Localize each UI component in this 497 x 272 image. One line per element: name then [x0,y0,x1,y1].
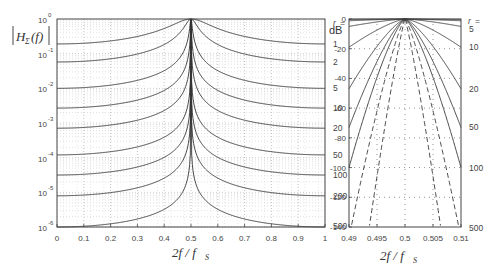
left-y-tick-exp: -6 [48,220,54,226]
right-plot-curves [349,19,461,227]
right-y-tick-label: -80 [334,134,346,143]
right-r-eq: = [475,16,480,26]
left-x-tick-label: 0.9 [293,234,305,243]
right-x-tick-label: 0.49 [341,234,357,243]
right-r-label: 10 [469,42,479,52]
right-plot-grid [349,19,461,227]
right-x-tick-label: 0.51 [453,234,469,243]
xlabel-right: 2f / f [380,248,406,263]
right-y-tick-label: -140 [330,223,347,232]
left-y-axis-label: H Σ (f) [13,26,49,46]
xlabel-left-sub: S [205,253,209,262]
ylabel-sub: Σ [24,37,30,46]
left-r-label: 20 [333,123,343,133]
xlabel-right-sub: S [413,256,417,265]
right-y-tick-label: -60 [334,104,346,113]
left-x-tick-label: 0.7 [239,234,251,243]
right-x-tick-label: 0.5 [399,234,411,243]
left-y-tick-exp: -4 [48,151,54,157]
left-y-tick-exp: -2 [48,81,54,87]
left-y-tick-label: 10 [38,224,47,233]
left-r-label: 50 [333,150,343,160]
left-x-tick-label: 0.5 [185,234,197,243]
left-x-axis-label: 2f / f S [172,245,209,262]
left-y-tick-exp: -1 [48,47,54,53]
left-x-tick-label: 0.2 [105,234,117,243]
left-x-tick-label: 0.3 [132,234,144,243]
left-y-tick-label: 10 [38,51,47,60]
right-curve-r-500 [351,19,405,227]
left-r-label: 5 [333,83,338,93]
left-y-tick-label: 10 [38,16,47,25]
right-r-label: 5 [469,24,474,34]
right-curve-r-500 [405,19,459,227]
xlabel-left: 2f / f [172,245,198,260]
right-r-label: 20 [469,84,479,94]
left-y-tick-label: 10 [38,189,47,198]
db-label: dB [329,24,342,36]
left-plot-curves [57,19,325,227]
left-y-tick-exp: -5 [48,185,54,191]
left-y-tick-label: 10 [38,85,47,94]
left-x-tick-label: 0.6 [212,234,224,243]
right-y-tick-label: 0 [342,15,347,24]
left-y-tick-exp: 0 [48,12,52,18]
left-curve-r-500 [57,19,325,227]
left-x-tick-label: 1 [323,234,328,243]
right-y-tick-label: -100 [330,164,347,173]
right-x-axis-label: 2f / f S [380,248,417,265]
right-curve-r-10 [405,19,461,47]
right-r-label: 500 [469,223,483,233]
right-curve-r-10 [349,19,405,47]
chart-canvas: 00.10.20.30.40.50.60.70.80.91 10010-110-… [0,0,497,272]
left-y-tick-exp: -3 [48,116,54,122]
right-x-tick-label: 0.495 [367,234,388,243]
ylabel-arg: (f) [31,29,43,44]
left-x-tick-label: 0.1 [78,234,90,243]
right-y-tick-label: -20 [334,45,346,54]
left-x-tick-label: 0.4 [159,234,171,243]
right-y-tick-label: -40 [334,74,346,83]
right-plot-frame [349,19,461,227]
left-y-tick-label: 10 [38,155,47,164]
right-y-tick-label: -120 [330,193,347,202]
left-y-tick-label: 10 [38,120,47,129]
right-x-tick-label: 0.505 [423,234,444,243]
left-x-tick-label: 0.8 [266,234,278,243]
left-x-tick-label: 0 [55,234,60,243]
right-r-legend: r=5102050100500 [468,16,483,233]
right-r-label: 50 [469,122,479,132]
right-r-label: 100 [469,163,483,173]
left-y-ticks: 10010-110-210-310-410-510-6 [38,12,54,233]
left-r-label: 2 [333,57,338,67]
